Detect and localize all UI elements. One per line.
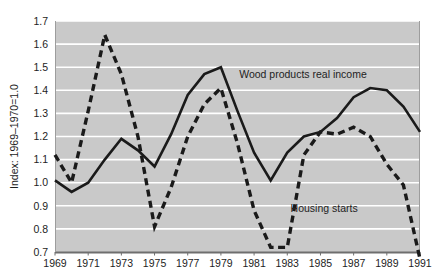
series-label-housing-starts: Housing starts <box>291 202 358 214</box>
y-tick-label: 1.3 <box>33 107 48 119</box>
x-tick-label: 1989 <box>375 257 399 269</box>
y-tick-label: 1.5 <box>33 61 48 73</box>
y-axis-title: Index: 1969–1970=1.0 <box>8 84 20 189</box>
x-tick-label: 1979 <box>209 257 233 269</box>
chart-figure: 0.70.80.91.01.11.21.31.41.51.61.7 196919… <box>0 0 445 280</box>
x-tick-label: 1987 <box>342 257 366 269</box>
x-tick-label: 1977 <box>176 257 200 269</box>
x-tick-label: 1969 <box>43 257 67 269</box>
x-tick-label: 1975 <box>143 257 167 269</box>
x-tick-label: 1973 <box>110 257 134 269</box>
y-tick-label: 0.8 <box>33 223 48 235</box>
x-tick-label: 1983 <box>276 257 300 269</box>
x-axis-tick-labels: 1969197119731975197719791981198319851987… <box>43 257 432 269</box>
y-tick-label: 1.4 <box>33 84 48 96</box>
y-axis-tick-labels: 0.70.80.91.01.11.21.31.41.51.61.7 <box>33 15 48 258</box>
y-tick-label: 0.9 <box>33 200 48 212</box>
y-tick-label: 1.1 <box>33 153 48 165</box>
series-label-wood-products-real-income: Wood products real income <box>239 68 367 80</box>
x-tick-label: 1981 <box>242 257 266 269</box>
x-tick-label: 1971 <box>77 257 101 269</box>
y-tick-label: 1.2 <box>33 130 48 142</box>
y-tick-label: 1.7 <box>33 15 48 27</box>
y-tick-label: 1.6 <box>33 38 48 50</box>
x-tick-label: 1991 <box>408 257 432 269</box>
y-tick-label: 1.0 <box>33 176 48 188</box>
x-tick-label: 1985 <box>309 257 333 269</box>
line-chart: 0.70.80.91.01.11.21.31.41.51.61.7 196919… <box>0 0 445 280</box>
